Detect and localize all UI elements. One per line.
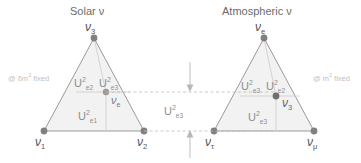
atm-region-upper-right-label: U2e2 — [266, 79, 285, 94]
solar-region-lower-label: U2e1 — [78, 109, 97, 124]
center-down-arrow-icon — [187, 62, 194, 92]
center-ue3-label: U2e3 — [164, 104, 183, 119]
atm-right-dot — [311, 128, 318, 135]
solar-fixed-note: @ δm2 fixed — [8, 73, 49, 82]
solar-right-vertex-label: ν2 — [137, 136, 147, 151]
solar-inner-vertex-label: νe — [111, 95, 120, 108]
solar-region-upper-left-label: U2e2 — [74, 76, 93, 91]
solar-region-upper-right-label: U2e3 — [99, 76, 118, 91]
solar-heading: Solar ν — [70, 6, 104, 17]
atmospheric-heading: Atmospheric ν — [222, 6, 292, 17]
atm-region-lower-label: U2e3 — [248, 110, 267, 125]
atm-apex-label: νe — [255, 21, 265, 36]
atm-inner-vertex-label: ν3 — [282, 97, 292, 112]
center-up-arrow-icon — [187, 130, 194, 158]
atm-left-vertex-label: ντ — [205, 136, 214, 151]
atmospheric-fixed-note: @ m2 fixed — [313, 73, 350, 82]
atm-region-upper-left-label: U2e3 — [241, 79, 260, 94]
atm-right-vertex-label: νμ — [307, 136, 317, 151]
solar-apex-label: ν3 — [85, 21, 95, 36]
solar-left-dot — [41, 128, 48, 135]
diagram-canvas: Solar ν ν3 ν1 ν2 νe U2e2 U2e3 U2e1 @ δm2… — [0, 0, 361, 163]
solar-left-vertex-label: ν1 — [35, 136, 45, 151]
